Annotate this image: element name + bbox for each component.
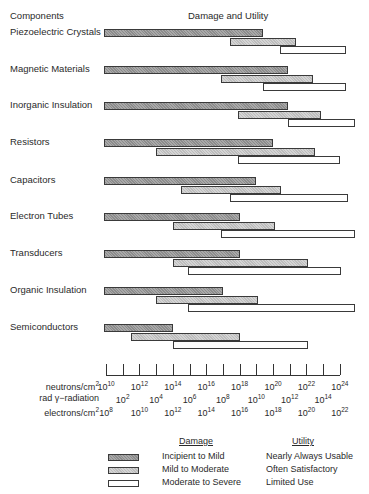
gamma-tick-label: 1014 [314, 393, 331, 405]
electrons-tick-label: 1022 [331, 406, 348, 418]
damage-bar-light [280, 46, 347, 54]
component-label: Organic Insulation [10, 284, 87, 295]
damage-bar-mid [221, 75, 313, 83]
neutrons-tick-label: 1022 [298, 380, 315, 392]
gamma-tick-label: 1010 [248, 393, 265, 405]
legend-damage-2: Moderate to Severe [162, 477, 241, 487]
damage-bar-mid [230, 38, 297, 46]
damage-bar-dark [104, 324, 173, 332]
damage-bar-mid [131, 333, 240, 341]
damage-bar-light [188, 267, 342, 275]
component-label: Piezoelectric Crystals [10, 26, 101, 37]
x-axis-tick [240, 364, 241, 375]
legend-utility-2: Limited Use [266, 477, 314, 487]
x-axis-tick [340, 364, 341, 375]
x-axis-line [106, 375, 340, 376]
electrons-tick-label: 1014 [198, 406, 215, 418]
component-label: Inorganic Insulation [10, 99, 92, 110]
electrons-tick-label: 1020 [298, 406, 315, 418]
legend-swatch-mild [108, 467, 139, 474]
damage-bar-dark [104, 102, 288, 110]
legend-utility-0: Nearly Always Usable [266, 451, 353, 461]
x-axis-tick [290, 364, 291, 375]
gamma-tick-label: 108 [216, 393, 230, 405]
damage-bar-light [230, 194, 349, 202]
damage-bar-light [188, 304, 355, 312]
chart-title: Damage and Utility [188, 10, 268, 21]
neutrons-tick-label: 1012 [131, 380, 148, 392]
x-axis-tick [273, 364, 274, 375]
damage-bar-light [263, 83, 347, 91]
gamma-tick-label: 102 [116, 393, 130, 405]
electrons-axis-label: electrons/cm2 [44, 406, 99, 418]
neutrons-tick-label: 1016 [198, 380, 215, 392]
neutrons-tick-label: 1010 [97, 380, 114, 392]
damage-bar-dark [104, 287, 223, 295]
electrons-tick-label: 1018 [264, 406, 281, 418]
damage-bar-light [173, 341, 308, 349]
damage-bar-dark [104, 29, 263, 37]
x-axis-tick [256, 364, 257, 375]
x-axis-tick [323, 364, 324, 375]
gamma-axis-label: rad γ−radiation [39, 393, 99, 403]
damage-bar-mid [181, 186, 281, 194]
damage-bar-light [221, 230, 355, 238]
damage-bar-dark [104, 66, 288, 74]
neutrons-tick-label: 1024 [331, 380, 348, 392]
damage-bar-dark [104, 213, 240, 221]
damage-bar-mid [156, 296, 258, 304]
damage-bar-mid [173, 259, 308, 267]
damage-bar-mid [238, 111, 322, 119]
x-axis-tick [123, 364, 124, 375]
legend-swatch-moderate [108, 480, 139, 487]
damage-bar-mid [156, 148, 315, 156]
electrons-tick-label: 1010 [131, 406, 148, 418]
x-axis-tick [156, 364, 157, 375]
damage-bar-light [238, 156, 340, 164]
electrons-tick-label: 1016 [231, 406, 248, 418]
x-axis-tick [206, 364, 207, 375]
components-header: Components [10, 10, 64, 21]
x-axis-tick [223, 364, 224, 375]
legend-swatch-incipient [108, 454, 139, 461]
legend-damage-0: Incipient to Mild [162, 451, 225, 461]
electrons-tick-label: 108 [99, 406, 113, 418]
legend-damage-header: Damage [179, 436, 213, 446]
component-label: Magnetic Materials [10, 63, 90, 74]
legend-damage-1: Mild to Moderate [162, 464, 229, 474]
component-label: Semiconductors [10, 321, 78, 332]
x-axis-tick [173, 364, 174, 375]
x-axis-tick [190, 364, 191, 375]
damage-bar-dark [104, 177, 256, 185]
legend-utility-header: Utility [292, 436, 314, 446]
electrons-tick-label: 1012 [164, 406, 181, 418]
component-label: Transducers [10, 247, 62, 258]
damage-bar-dark [104, 250, 240, 258]
legend-utility-1: Often Satisfactory [266, 464, 338, 474]
damage-bar-light [288, 119, 355, 127]
damage-bar-dark [104, 139, 273, 147]
gamma-tick-label: 104 [149, 393, 163, 405]
component-label: Resistors [10, 136, 50, 147]
x-axis-tick [106, 364, 107, 375]
x-axis-tick [139, 364, 140, 375]
x-axis-tick [306, 364, 307, 375]
neutrons-tick-label: 1014 [164, 380, 181, 392]
neutrons-axis-label: neutrons/cm2 [46, 380, 99, 392]
damage-bar-mid [173, 222, 275, 230]
component-label: Electron Tubes [10, 210, 73, 221]
gamma-tick-label: 106 [183, 393, 197, 405]
gamma-tick-label: 1012 [281, 393, 298, 405]
neutrons-tick-label: 1020 [264, 380, 281, 392]
component-label: Capacitors [10, 174, 55, 185]
neutrons-tick-label: 1018 [231, 380, 248, 392]
